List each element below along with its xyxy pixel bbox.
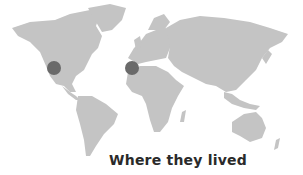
madagascar: [180, 110, 186, 122]
southeast-asia: [224, 92, 260, 110]
south-america: [76, 96, 118, 156]
landmasses: [12, 4, 288, 156]
scandinavia: [148, 14, 170, 30]
australia: [232, 112, 266, 142]
marker-western-north-america[interactable]: [47, 61, 61, 75]
europe: [128, 28, 172, 64]
africa: [126, 66, 184, 132]
new-zealand: [274, 138, 280, 150]
world-map: [0, 0, 303, 175]
map-caption: Where they lived: [108, 152, 248, 168]
marker-iberian-peninsula[interactable]: [125, 61, 139, 75]
north-america: [12, 10, 102, 92]
